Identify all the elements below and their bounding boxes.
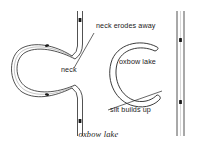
label-silt-builds-up: silt builds up (110, 106, 151, 113)
oxbow-lake-outer-shore (110, 43, 160, 107)
oxbow-lake-lower-plug (157, 95, 160, 99)
lower-channel-banks (72, 85, 83, 136)
label-oxbow-lake: oxbow lake (119, 58, 156, 65)
oxbow-lake-figure: neck erodes away neck oxbow lake silt bu… (0, 0, 197, 149)
label-neck-erodes-away: neck erodes away (96, 22, 156, 29)
label-neck: neck (61, 66, 77, 73)
oxbow-lake-upper-plug (155, 47, 158, 51)
straightened-channel-banks (177, 11, 184, 136)
figure-caption: oxbow lake (0, 130, 197, 139)
oxbow-lake-inner-shore (116, 48, 157, 102)
